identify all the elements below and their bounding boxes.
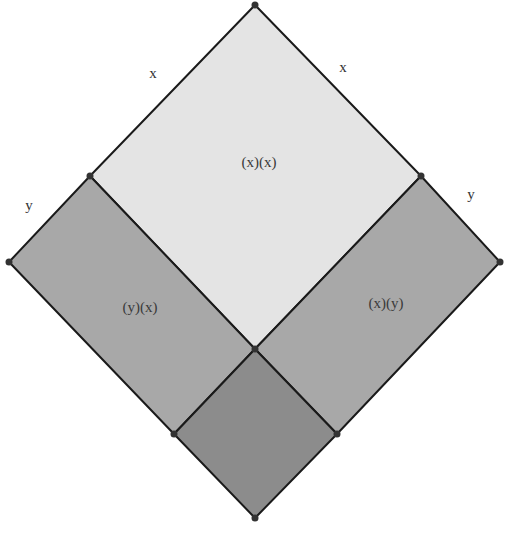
vertex-point-lower-left bbox=[171, 431, 178, 438]
region-label-rect-xy: (x)(y) bbox=[369, 295, 404, 312]
area-model-diagram: (x)(x)(y)(x)(x)(y)xxyy bbox=[0, 0, 511, 533]
vertex-point-center bbox=[252, 346, 259, 353]
side-label-top-right-x: x bbox=[339, 59, 347, 75]
vertex-point-lower-right bbox=[334, 431, 341, 438]
side-label-top-left-x: x bbox=[149, 65, 157, 81]
side-label-right-y: y bbox=[467, 186, 475, 202]
vertex-point-upper-left bbox=[87, 173, 94, 180]
diagram-canvas: (x)(x)(y)(x)(x)(y)xxyy bbox=[0, 0, 511, 533]
regions-layer bbox=[9, 5, 500, 518]
vertex-point-left bbox=[6, 259, 13, 266]
vertex-point-bottom bbox=[252, 515, 259, 522]
vertex-point-upper-right bbox=[418, 173, 425, 180]
vertex-point-right bbox=[497, 259, 504, 266]
region-label-square-xx: (x)(x) bbox=[242, 154, 277, 171]
vertex-point-top bbox=[252, 2, 259, 9]
region-label-rect-yx: (y)(x) bbox=[123, 299, 158, 316]
side-label-left-y: y bbox=[25, 197, 33, 213]
